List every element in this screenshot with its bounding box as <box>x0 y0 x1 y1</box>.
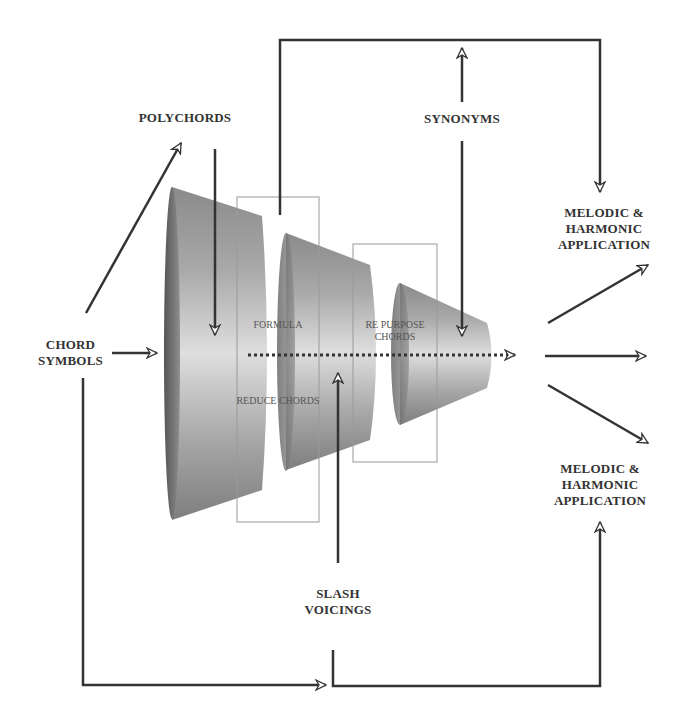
slash-voicings-line-2: VOICINGS <box>290 602 386 618</box>
label-formula: FORMULA <box>237 319 319 331</box>
label-chord-symbols: CHORD SYMBOLS <box>28 337 113 369</box>
chord-symbols-line-1: CHORD <box>28 337 113 353</box>
chord-symbols-line-2: SYMBOLS <box>28 353 113 369</box>
label-synonyms: SYNONYMS <box>410 111 514 127</box>
chord-funnel-diagram: POLYCHORDS SYNONYMS CHORD SYMBOLS SLASH … <box>0 0 687 724</box>
melodic-bottom-line-3: APPLICATION <box>544 493 656 509</box>
cone-stage-2 <box>277 233 376 471</box>
melodic-top-line-3: APPLICATION <box>548 237 660 253</box>
formula-text: FORMULA <box>237 319 319 331</box>
output-arrow-down <box>548 385 648 443</box>
label-slash-voicings: SLASH VOICINGS <box>290 586 386 618</box>
top-loop-arrow <box>280 40 600 215</box>
melodic-bottom-line-2: HARMONIC <box>544 477 656 493</box>
reduce-chords-text: REDUCE CHORDS <box>232 395 324 407</box>
label-polychords: POLYCHORDS <box>130 110 240 126</box>
melodic-bottom-line-1: MELODIC & <box>544 461 656 477</box>
label-reduce-chords: REDUCE CHORDS <box>232 395 324 407</box>
output-arrow-up <box>548 265 648 323</box>
repurpose-line-2: CHORDS <box>353 331 437 343</box>
label-repurpose-chords: RE PURPOSE CHORDS <box>353 319 437 343</box>
repurpose-line-1: RE PURPOSE <box>353 319 437 331</box>
polychords-text: POLYCHORDS <box>130 110 240 126</box>
synonyms-text: SYNONYMS <box>410 111 514 127</box>
slash-voicings-line-1: SLASH <box>290 586 386 602</box>
label-melodic-bottom: MELODIC & HARMONIC APPLICATION <box>544 461 656 509</box>
melodic-top-line-1: MELODIC & <box>548 205 660 221</box>
melodic-top-line-2: HARMONIC <box>548 221 660 237</box>
label-melodic-top: MELODIC & HARMONIC APPLICATION <box>548 205 660 253</box>
